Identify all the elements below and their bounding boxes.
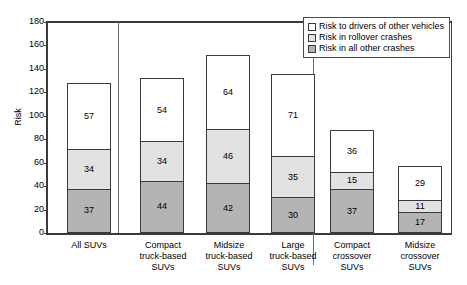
legend-item: Risk to drivers of other vehicles <box>308 21 444 32</box>
x-axis-label-line: crossover <box>377 251 463 262</box>
stacked-bar-chart: Risk 180160140120100806040200 5734375434… <box>0 0 467 285</box>
bar-segment: 64 <box>206 55 250 131</box>
y-tick-mark <box>44 186 48 187</box>
bar-segment: 71 <box>271 74 315 158</box>
bar-segment: 34 <box>67 149 111 190</box>
bar-segment: 15 <box>330 172 374 190</box>
bar-segment-value: 34 <box>84 165 94 174</box>
x-axis-label: MidsizecrossoverSUVs <box>377 240 463 273</box>
bar-segment: 37 <box>330 189 374 233</box>
bar-segment-value: 29 <box>415 179 425 188</box>
legend-item: Risk in all other crashes <box>308 43 444 54</box>
y-tick-mark <box>44 210 48 211</box>
y-tick-mark <box>44 69 48 70</box>
legend-label: Risk in all other crashes <box>319 43 415 54</box>
x-axis-label-line: Midsize <box>377 240 463 251</box>
bar-segment-value: 46 <box>223 152 233 161</box>
bar-segment-value: 37 <box>347 207 357 216</box>
bar-segment: 35 <box>271 156 315 198</box>
legend-swatch-rollover <box>308 34 316 42</box>
legend-item: Risk in rollover crashes <box>308 32 444 43</box>
bar-midsize-truck-based-suvs: 644642 <box>206 55 250 233</box>
bar-segment-value: 17 <box>415 218 425 227</box>
bar-segment-value: 37 <box>84 206 94 215</box>
bar-segment: 29 <box>398 166 442 200</box>
bar-segment: 42 <box>206 183 250 233</box>
bar-segment: 44 <box>140 181 184 233</box>
bar-segment-value: 71 <box>288 111 298 120</box>
bar-compact-crossover-suvs: 361537 <box>330 130 374 233</box>
bar-midsize-crossover-suvs: 291117 <box>398 166 442 233</box>
bar-segment-value: 54 <box>157 106 167 115</box>
legend-label: Risk to drivers of other vehicles <box>319 21 444 32</box>
bar-segment-value: 11 <box>415 202 424 211</box>
x-axis-label-line: SUVs <box>377 262 463 273</box>
y-tick-mark <box>44 116 48 117</box>
bar-segment: 34 <box>140 141 184 182</box>
bar-segment-value: 57 <box>84 112 94 121</box>
bar-segment: 11 <box>398 200 442 214</box>
bar-segment-value: 36 <box>347 147 357 156</box>
bar-segment: 17 <box>398 212 442 233</box>
legend-swatch-other-vehicles <box>308 23 316 31</box>
bar-segment: 30 <box>271 197 315 233</box>
bar-segment: 54 <box>140 78 184 142</box>
y-tick-mark <box>44 22 48 23</box>
bar-segment-value: 35 <box>288 173 298 182</box>
y-tick-mark <box>44 92 48 93</box>
bar-large-truck-based-suvs: 713530 <box>271 74 315 233</box>
bar-segment-value: 34 <box>157 157 167 166</box>
chart-legend: Risk to drivers of other vehicles Risk i… <box>303 17 450 58</box>
bar-segment: 46 <box>206 129 250 184</box>
bar-segment-value: 42 <box>223 204 233 213</box>
y-tick-mark <box>44 163 48 164</box>
bar-all-suvs: 573437 <box>67 83 111 233</box>
bar-segment: 37 <box>67 189 111 233</box>
bar-segment-value: 30 <box>288 211 298 220</box>
bar-compact-truck-based-suvs: 543444 <box>140 78 184 233</box>
bar-segment-value: 44 <box>157 202 167 211</box>
y-tick-mark <box>44 233 48 234</box>
bar-segment: 57 <box>67 83 111 150</box>
y-tick-mark <box>44 45 48 46</box>
legend-swatch-all-other <box>308 45 316 53</box>
y-tick-mark <box>44 139 48 140</box>
legend-label: Risk in rollover crashes <box>319 32 412 43</box>
bar-segment: 36 <box>330 130 374 173</box>
bar-segment-value: 15 <box>347 176 357 185</box>
bar-segment-value: 64 <box>223 88 233 97</box>
